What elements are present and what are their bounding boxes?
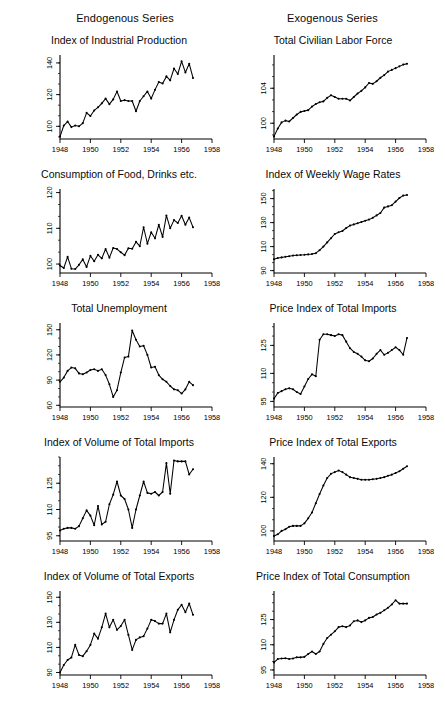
svg-text:95: 95 xyxy=(259,666,268,674)
svg-text:120: 120 xyxy=(45,88,54,100)
svg-text:1950: 1950 xyxy=(82,145,98,154)
chart-title-price-index-of-total-exports: Price Index of Total Exports xyxy=(228,436,438,448)
svg-text:100: 100 xyxy=(45,258,54,270)
svg-text:1952: 1952 xyxy=(113,145,129,154)
svg-text:1954: 1954 xyxy=(357,145,373,154)
chart-panel-price-index-of-total-imports: Price Index of Total Imports194819501952… xyxy=(228,302,438,432)
svg-text:110: 110 xyxy=(45,504,54,516)
svg-text:1958: 1958 xyxy=(204,681,220,690)
svg-text:1950: 1950 xyxy=(82,413,98,422)
svg-text:90: 90 xyxy=(45,668,54,676)
svg-text:1948: 1948 xyxy=(52,279,68,288)
svg-text:110: 110 xyxy=(259,241,268,253)
svg-text:1956: 1956 xyxy=(387,681,403,690)
chart-panel-total-unemployment: Total Unemployment1948195019521954195619… xyxy=(14,302,224,432)
svg-text:1948: 1948 xyxy=(266,413,282,422)
svg-text:120: 120 xyxy=(259,491,268,503)
svg-text:1956: 1956 xyxy=(173,413,189,422)
plot-area-total-civilian-labor-force: 194819501952195419561958100104 xyxy=(228,49,438,164)
chart-title-price-index-of-total-consumption: Price Index of Total Consumption xyxy=(228,570,438,582)
svg-text:1954: 1954 xyxy=(357,547,373,556)
svg-text:1956: 1956 xyxy=(173,145,189,154)
svg-text:150: 150 xyxy=(45,324,54,336)
svg-text:1948: 1948 xyxy=(52,681,68,690)
svg-text:1956: 1956 xyxy=(387,413,403,422)
svg-text:1958: 1958 xyxy=(204,145,220,154)
svg-text:1954: 1954 xyxy=(143,145,159,154)
svg-text:1950: 1950 xyxy=(296,413,312,422)
column-heading-exogenous: Exogenous Series xyxy=(245,12,420,24)
svg-text:150: 150 xyxy=(45,591,54,603)
svg-text:1954: 1954 xyxy=(143,279,159,288)
svg-text:1954: 1954 xyxy=(357,681,373,690)
svg-text:1952: 1952 xyxy=(113,547,129,556)
svg-text:1958: 1958 xyxy=(418,681,434,690)
plot-area-total-unemployment: 1948195019521954195619586090120150 xyxy=(14,317,224,432)
svg-text:60: 60 xyxy=(45,401,54,409)
svg-text:1956: 1956 xyxy=(173,681,189,690)
column-heading-endogenous: Endogenous Series xyxy=(30,12,220,24)
svg-text:90: 90 xyxy=(259,266,268,274)
svg-text:1950: 1950 xyxy=(296,279,312,288)
svg-text:1952: 1952 xyxy=(327,145,343,154)
chart-title-total-unemployment: Total Unemployment xyxy=(14,302,224,314)
svg-text:1954: 1954 xyxy=(143,547,159,556)
chart-title-index-of-weekly-wage-rates: Index of Weekly Wage Rates xyxy=(228,168,438,180)
svg-text:1958: 1958 xyxy=(204,413,220,422)
svg-text:1958: 1958 xyxy=(418,413,434,422)
svg-text:125: 125 xyxy=(259,339,268,351)
svg-text:1958: 1958 xyxy=(204,279,220,288)
svg-text:1948: 1948 xyxy=(266,279,282,288)
svg-text:1948: 1948 xyxy=(52,145,68,154)
svg-text:130: 130 xyxy=(45,616,54,628)
svg-text:1952: 1952 xyxy=(327,681,343,690)
svg-text:1954: 1954 xyxy=(357,413,373,422)
plot-area-index-of-volume-of-total-exports: 19481950195219541956195890110130150 xyxy=(14,585,224,700)
svg-text:1948: 1948 xyxy=(266,547,282,556)
chart-panel-price-index-of-total-exports: Price Index of Total Exports194819501952… xyxy=(228,436,438,566)
svg-text:140: 140 xyxy=(259,458,268,470)
svg-text:95: 95 xyxy=(259,397,268,405)
svg-text:90: 90 xyxy=(45,376,54,384)
svg-text:110: 110 xyxy=(45,642,54,654)
svg-text:1952: 1952 xyxy=(327,413,343,422)
plot-area-index-of-industrial-production: 194819501952195419561958100120140 xyxy=(14,49,224,164)
chart-panel-index-of-volume-of-total-imports: Index of Volume of Total Imports19481950… xyxy=(14,436,224,566)
plot-area-index-of-volume-of-total-imports: 19481950195219541956195895110125 xyxy=(14,451,224,566)
chart-title-index-of-volume-of-total-exports: Index of Volume of Total Exports xyxy=(14,570,224,582)
svg-text:100: 100 xyxy=(259,117,268,129)
chart-panel-index-of-weekly-wage-rates: Index of Weekly Wage Rates19481950195219… xyxy=(228,168,438,298)
svg-text:120: 120 xyxy=(45,349,54,361)
svg-text:1952: 1952 xyxy=(327,279,343,288)
svg-text:1954: 1954 xyxy=(143,681,159,690)
svg-text:1956: 1956 xyxy=(387,547,403,556)
svg-text:1948: 1948 xyxy=(266,145,282,154)
svg-text:1950: 1950 xyxy=(296,547,312,556)
svg-text:140: 140 xyxy=(45,57,54,69)
svg-text:110: 110 xyxy=(259,368,268,380)
chart-panel-total-civilian-labor-force: Total Civilian Labor Force19481950195219… xyxy=(228,34,438,164)
chart-title-index-of-volume-of-total-imports: Index of Volume of Total Imports xyxy=(14,436,224,448)
svg-text:1950: 1950 xyxy=(82,279,98,288)
svg-text:120: 120 xyxy=(45,186,54,198)
svg-text:130: 130 xyxy=(259,216,268,228)
chart-panel-consumption-of-food-drinks-etc: Consumption of Food, Drinks etc.19481950… xyxy=(14,168,224,298)
svg-text:125: 125 xyxy=(259,613,268,625)
svg-text:150: 150 xyxy=(259,192,268,204)
svg-text:1952: 1952 xyxy=(113,279,129,288)
svg-text:1958: 1958 xyxy=(418,279,434,288)
chart-panel-index-of-industrial-production: Index of Industrial Production1948195019… xyxy=(14,34,224,164)
svg-text:1956: 1956 xyxy=(173,547,189,556)
svg-text:1956: 1956 xyxy=(387,279,403,288)
plot-area-price-index-of-total-imports: 19481950195219541956195895110125 xyxy=(228,317,438,432)
chart-title-consumption-of-food-drinks-etc: Consumption of Food, Drinks etc. xyxy=(14,168,224,180)
svg-text:95: 95 xyxy=(45,532,54,540)
svg-text:1948: 1948 xyxy=(52,413,68,422)
svg-text:104: 104 xyxy=(259,82,268,94)
plot-area-consumption-of-food-drinks-etc: 194819501952195419561958100110120 xyxy=(14,183,224,298)
svg-text:1948: 1948 xyxy=(52,547,68,556)
plot-area-index-of-weekly-wage-rates: 19481950195219541956195890110130150 xyxy=(228,183,438,298)
svg-text:1956: 1956 xyxy=(387,145,403,154)
svg-text:1958: 1958 xyxy=(418,145,434,154)
svg-text:100: 100 xyxy=(45,120,54,132)
